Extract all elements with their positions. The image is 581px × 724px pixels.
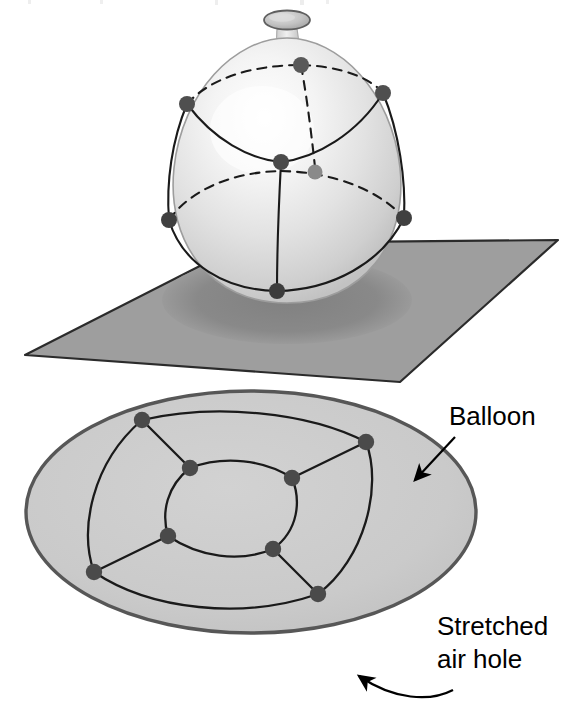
planar-vertex-inner-top-right	[284, 470, 300, 486]
planar-vertex-outer-bottom-left	[86, 564, 102, 580]
balloon-label: Balloon	[449, 401, 536, 431]
sphere-vertex-bottom-front	[269, 283, 285, 299]
balloon-highlight	[210, 86, 314, 174]
sphere-vertex-upper-right	[375, 85, 391, 101]
sphere-vertex-center-back	[308, 165, 323, 180]
sphere-vertex-center-front	[273, 154, 289, 170]
figure-root: Balloon Stretched air hole	[0, 0, 581, 724]
stretched-air-hole-label-line1: Stretched	[437, 611, 548, 641]
planar-vertex-inner-bottom-left	[160, 528, 176, 544]
sphere-vertex-top-back	[293, 57, 309, 73]
planar-vertex-outer-bottom-right	[310, 586, 326, 602]
balloon-nozzle-highlight	[269, 13, 295, 21]
bottom-scene-planar-embedding	[26, 391, 476, 633]
stretched-air-hole-leader-arrow	[359, 676, 453, 697]
top-edge-crop-artifact	[28, 0, 329, 5]
sphere-vertex-lower-right	[396, 210, 412, 226]
top-scene-balloon-on-plane	[25, 11, 558, 383]
planar-vertex-outer-top-right	[358, 434, 374, 450]
sphere-vertex-upper-left	[179, 96, 195, 112]
sphere-vertex-lower-left	[161, 212, 177, 228]
stretched-disk	[26, 391, 476, 633]
planar-vertex-outer-top-left	[134, 412, 150, 428]
stretched-air-hole-label-line2: air hole	[437, 644, 522, 674]
planar-vertex-inner-bottom-right	[265, 541, 281, 557]
planar-vertex-inner-top-left	[182, 460, 198, 476]
diagram-canvas: Balloon Stretched air hole	[0, 0, 581, 724]
